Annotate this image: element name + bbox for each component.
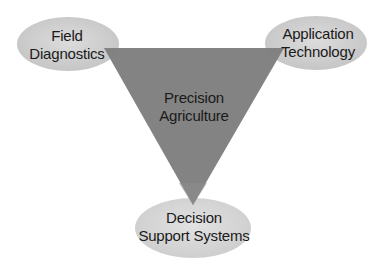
label-application-technology: Application Technology (281, 25, 355, 61)
label-line: Diagnostics (29, 45, 104, 63)
label-line: Application (281, 25, 355, 43)
label-line: Field (29, 27, 104, 45)
label-line: Support Systems (138, 227, 249, 245)
label-line: Agriculture (159, 107, 229, 125)
label-line: Decision (138, 209, 249, 227)
label-decision-support-systems: Decision Support Systems (138, 209, 249, 245)
label-line: Precision (159, 89, 229, 107)
label-precision-agriculture: Precision Agriculture (159, 89, 229, 125)
label-field-diagnostics: Field Diagnostics (29, 27, 104, 63)
triangle-precision-agriculture (104, 48, 284, 205)
label-line: Technology (281, 43, 355, 61)
